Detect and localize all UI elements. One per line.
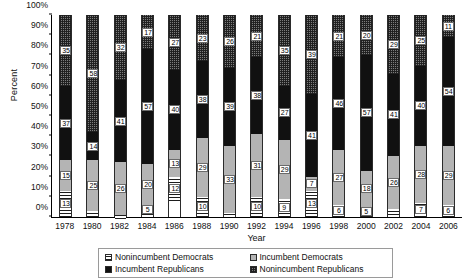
stacked-bar[interactable]: 3241262 <box>114 15 127 217</box>
bar-value-label: 17 <box>142 28 153 37</box>
stacked-bar[interactable]: 2146276 <box>332 15 345 217</box>
legend-item-nid: Nonincumbent Democrats <box>105 251 244 263</box>
x-tick-label: 1992 <box>243 218 270 232</box>
bar-value-label: 5 <box>142 205 153 214</box>
bar-value-label: 58 <box>87 69 98 78</box>
bar-value-label: 13 <box>60 199 71 208</box>
bar-column: 3241262 <box>107 15 134 217</box>
bar-column: 5814253 <box>79 15 106 217</box>
stacked-bar[interactable]: 5814253 <box>86 15 99 217</box>
stacked-bar[interactable]: 1154296 <box>442 15 455 217</box>
bar-segment: 41 <box>388 74 399 157</box>
bar-segment: 6 <box>443 205 454 217</box>
stacked-bar[interactable]: 2540287 <box>414 15 427 217</box>
stacked-bar[interactable]: 2941263 <box>387 15 400 217</box>
bar-segment: 26 <box>224 15 235 68</box>
bar-value-label: 12 <box>169 184 180 193</box>
y-axis-title: Percent <box>9 55 19 115</box>
bar-value-label: 21 <box>333 32 344 41</box>
x-tick-label: 1984 <box>133 218 160 232</box>
bar-segment: 35 <box>60 15 71 86</box>
bar-segment: 7 <box>306 177 317 191</box>
bar-value-label: 26 <box>224 37 235 46</box>
stacked-bar[interactable]: 27401312 <box>168 15 181 217</box>
bar-segment: 57 <box>361 55 372 170</box>
stacked-bar[interactable]: 35371513 <box>59 15 72 217</box>
bar-segment: 5 <box>361 207 372 217</box>
bar-segment: 27 <box>279 86 290 141</box>
stacked-bar[interactable]: 2057185 <box>360 15 373 217</box>
x-tick-label: 2006 <box>435 218 462 232</box>
bar-segment: 29 <box>388 15 399 74</box>
bar-segment: 31 <box>251 134 262 197</box>
stacked-bar[interactable]: 1757205 <box>141 15 154 217</box>
bar-value-label: 41 <box>306 131 317 140</box>
stacked-bar[interactable]: 3527299 <box>278 15 291 217</box>
stacked-bar[interactable]: 2639331 <box>223 15 236 217</box>
bar-column: 3941713 <box>298 15 325 217</box>
stacked-bar[interactable]: 3941713 <box>305 15 318 217</box>
stacked-bar[interactable]: 23382910 <box>196 15 209 217</box>
y-tick-label: 100% <box>26 0 52 10</box>
bar-segment: 20 <box>361 15 372 55</box>
x-tick-label: 1982 <box>106 218 133 232</box>
x-tick-label: 1998 <box>325 218 352 232</box>
bar-value-label: 7 <box>415 205 426 214</box>
bar-segment: 3 <box>388 209 399 215</box>
bar-value-label: 33 <box>224 175 235 184</box>
bar-column: 1154296 <box>435 15 462 217</box>
chart-legend: Nonincumbent DemocratsIncumbent Democrat… <box>98 248 393 278</box>
bar-value-label: 27 <box>333 173 344 182</box>
bar-segment: 20 <box>142 164 153 204</box>
bar-value-label: 10 <box>197 202 208 211</box>
bar-value-label: 13 <box>306 199 317 208</box>
y-tick-label: 20% <box>31 162 52 172</box>
bar-segment: 27 <box>169 15 180 70</box>
bar-value-label: 39 <box>306 50 317 59</box>
bar-value-label: 25 <box>415 36 426 45</box>
bar-segment: 25 <box>415 15 426 66</box>
bar-segment: 39 <box>306 15 317 94</box>
legend-swatch-icon <box>250 266 257 273</box>
bar-column: 3527299 <box>271 15 298 217</box>
bar-segment: 38 <box>251 57 262 134</box>
bar-value-label: 10 <box>251 202 262 211</box>
legend-item-id: Incumbent Democrats <box>250 251 389 263</box>
bar-value-label: 13 <box>169 159 180 168</box>
bar-value-label: 29 <box>443 171 454 180</box>
bar-value-label: 35 <box>60 46 71 55</box>
bar-segment: 7 <box>415 203 426 217</box>
bar-segment: 6 <box>333 205 344 217</box>
bar-segment: 15 <box>60 160 71 190</box>
bar-value-label: 27 <box>279 108 290 117</box>
bar-value-label: 29 <box>388 40 399 49</box>
bar-value-label: 38 <box>251 91 262 100</box>
bar-column: 23382910 <box>189 15 216 217</box>
bar-segment: 27 <box>333 150 344 205</box>
y-tick-label: 90% <box>31 20 52 30</box>
bar-segment: 13 <box>169 150 180 176</box>
legend-item-nir: Nonincumbent Republicans <box>250 263 389 275</box>
bar-segment: 12 <box>169 177 180 201</box>
bar-segment: 10 <box>251 197 262 217</box>
y-tick-label: 10% <box>31 182 52 192</box>
bar-column: 21383110 <box>243 15 270 217</box>
legend-swatch-icon <box>250 254 257 261</box>
legend-label: Incumbent Democrats <box>260 252 343 262</box>
legend-swatch-icon <box>105 254 112 261</box>
bar-segment: 26 <box>388 156 399 209</box>
bar-value-label: 32 <box>115 43 126 52</box>
bar-segment: 40 <box>169 70 180 151</box>
bar-value-label: 46 <box>333 99 344 108</box>
bar-column: 1757205 <box>134 15 161 217</box>
bar-value-label: 38 <box>197 95 208 104</box>
bar-segment: 1 <box>224 213 235 215</box>
stacked-bar[interactable]: 21383110 <box>250 15 263 217</box>
bar-segment: 41 <box>115 80 126 163</box>
bar-value-label: 20 <box>142 180 153 189</box>
bar-value-label: 31 <box>251 161 262 170</box>
bar-segment: 25 <box>87 160 98 211</box>
bar-segment: 32 <box>115 15 126 80</box>
bar-value-label: 41 <box>388 110 399 119</box>
bar-segment: 21 <box>251 15 262 57</box>
